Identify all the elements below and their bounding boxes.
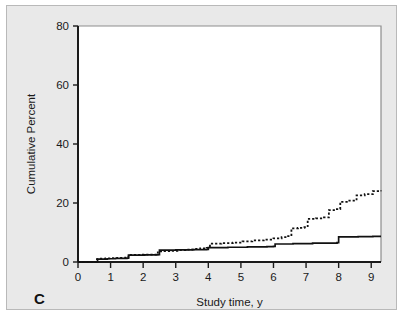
x-tick-label: 0 (75, 271, 81, 283)
x-tick-label: 5 (238, 271, 244, 283)
x-tick-label: 7 (303, 271, 309, 283)
chart-canvas: 020406080 0123456789 Cumulative Percent … (7, 6, 398, 311)
x-axis-title: Study time, y (196, 296, 263, 308)
y-tick-label: 0 (63, 256, 69, 268)
y-tick-label: 80 (56, 20, 69, 32)
x-axis-tick-labels: 0123456789 (75, 271, 375, 283)
panel-label: C (34, 290, 45, 307)
x-tick-label: 3 (173, 271, 179, 283)
y-tick-label: 40 (56, 138, 69, 150)
x-tick-label: 1 (107, 271, 113, 283)
x-tick-label: 2 (140, 271, 146, 283)
plot-area-background (78, 26, 381, 262)
y-axis-tick-labels: 020406080 (56, 20, 69, 268)
y-tick-label: 20 (56, 197, 69, 209)
x-tick-label: 6 (270, 271, 276, 283)
x-tick-label: 4 (205, 271, 212, 283)
x-tick-label: 8 (335, 271, 341, 283)
y-axis-title: Cumulative Percent (25, 93, 37, 194)
figure-panel: 020406080 0123456789 Cumulative Percent … (6, 5, 397, 310)
x-tick-label: 9 (368, 271, 374, 283)
y-tick-label: 60 (56, 79, 69, 91)
